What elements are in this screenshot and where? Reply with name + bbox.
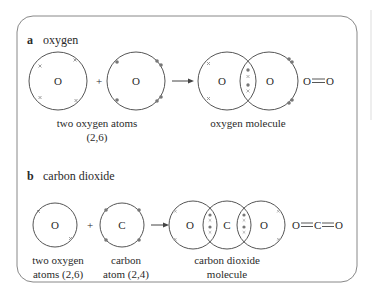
shared-electrons-right — [242, 213, 245, 233]
carbon-dioxide-formula: O C O — [292, 219, 343, 231]
oxygen-atom-2: O — [107, 52, 165, 110]
reaction-arrow — [172, 79, 194, 84]
co2-label: carbon dioxide — [194, 254, 260, 266]
svg-text:O: O — [292, 219, 300, 231]
panel-b-letter: b — [27, 169, 34, 183]
svg-text:C: C — [118, 219, 125, 231]
svg-text:O: O — [326, 75, 334, 87]
shared-electrons-left — [208, 213, 211, 233]
carbon-atom-label: carbon — [111, 254, 141, 266]
carbon-atom-config: atom (2,4) — [103, 268, 149, 281]
reactant-config: (2,6) — [86, 131, 107, 144]
reactant-label: two oxygen atoms — [57, 117, 138, 129]
reaction-arrow — [151, 223, 169, 228]
product-label: oxygen molecule — [210, 117, 286, 129]
svg-text:C: C — [314, 219, 321, 231]
svg-text:O: O — [260, 219, 268, 231]
oxygen-atoms-label: two oxygen — [32, 254, 84, 266]
molecule-right-symbol: O — [266, 75, 274, 87]
lone-pair-crosses — [207, 62, 210, 100]
oxygen-formula: O O — [303, 75, 334, 87]
panel-b-title: carbon dioxide — [43, 169, 115, 183]
carbon-atom: C — [100, 203, 144, 247]
molecule-left-symbol: O — [218, 75, 226, 87]
atom-symbol: O — [132, 75, 140, 87]
co2-label-line2: molecule — [207, 268, 247, 280]
svg-text:O: O — [186, 219, 194, 231]
svg-text:O: O — [335, 219, 343, 231]
carbon-dioxide-molecule: O C O — [169, 201, 285, 249]
oxygen-atoms-config: atoms (2,6) — [33, 268, 83, 281]
svg-text:O: O — [51, 219, 59, 231]
svg-text:C: C — [223, 219, 230, 231]
oxygen-atom-1: O — [29, 52, 87, 110]
atom-symbol: O — [54, 75, 62, 87]
plus-sign: + — [96, 75, 102, 87]
oxygen-atom: O — [33, 203, 77, 247]
svg-text:O: O — [303, 75, 311, 87]
panel-a-title: oxygen — [43, 33, 78, 47]
panel-a-letter: a — [27, 33, 33, 47]
plus-sign: + — [87, 219, 93, 231]
diagram-canvas: a oxygen O + O O O — [0, 0, 372, 299]
shared-electrons — [246, 68, 249, 92]
diagram-frame — [17, 16, 357, 282]
oxygen-molecule: O O — [198, 52, 298, 110]
